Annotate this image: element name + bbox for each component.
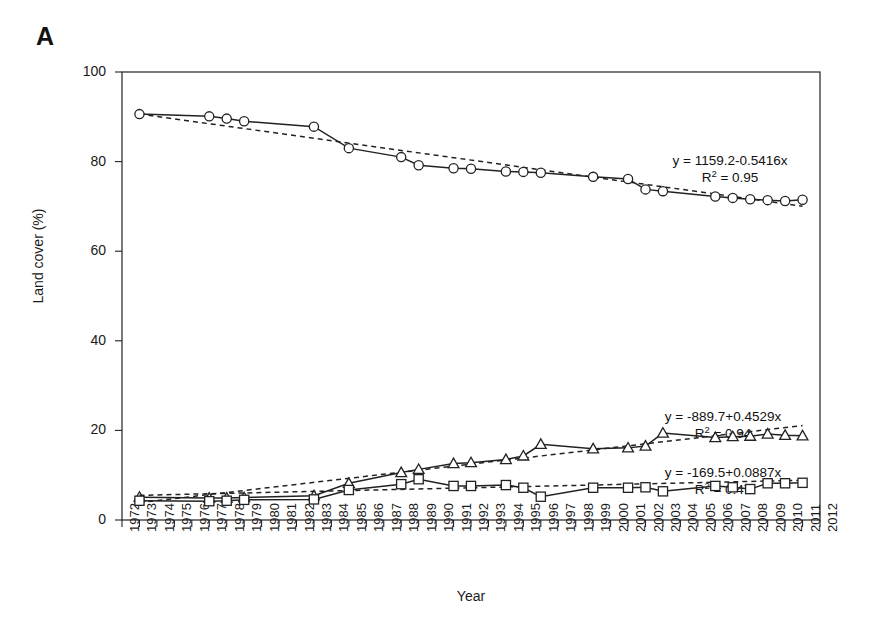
data-point-square (240, 495, 249, 504)
data-point-square (344, 485, 353, 494)
data-point-circle (798, 195, 807, 204)
data-point-triangle (762, 429, 773, 438)
data-point-square (623, 483, 632, 492)
data-point-square (711, 481, 720, 490)
data-point-square (781, 479, 790, 488)
data-point-square (222, 496, 231, 505)
data-point-circle (414, 161, 423, 170)
data-point-square (536, 492, 545, 501)
data-point-circle (589, 172, 598, 181)
data-point-circle (536, 168, 545, 177)
data-point-square (728, 483, 737, 492)
data-point-square (501, 480, 510, 489)
data-point-circle (466, 164, 475, 173)
data-point-square (466, 481, 475, 490)
data-point-circle (344, 144, 353, 153)
data-point-circle (205, 112, 214, 121)
data-point-circle (641, 185, 650, 194)
data-point-circle (519, 167, 528, 176)
data-point-square (519, 483, 528, 492)
series-circle (135, 110, 807, 207)
data-point-circle (746, 195, 755, 204)
data-point-square (589, 483, 598, 492)
data-point-square (641, 483, 650, 492)
data-point-circle (501, 167, 510, 176)
data-point-triangle (658, 428, 669, 437)
data-point-circle (222, 114, 231, 123)
data-point-circle (397, 153, 406, 162)
data-point-square (746, 484, 755, 493)
data-point-circle (711, 192, 720, 201)
data-point-circle (240, 117, 249, 126)
data-point-square (449, 481, 458, 490)
data-point-square (205, 497, 214, 506)
data-point-circle (658, 187, 667, 196)
figure-panel-a: A Land cover (%) Year 020406080100 19721… (0, 0, 869, 630)
data-point-square (763, 479, 772, 488)
data-point-circle (623, 174, 632, 183)
data-point-circle (135, 110, 144, 119)
data-point-square (135, 496, 144, 505)
data-point-circle (781, 196, 790, 205)
plot-frame (122, 72, 820, 520)
data-point-circle (728, 193, 737, 202)
data-point-circle (449, 164, 458, 173)
data-point-square (397, 480, 406, 489)
series-square (135, 475, 807, 506)
data-point-triangle (518, 451, 529, 460)
plot-area (0, 0, 869, 630)
data-point-circle (309, 122, 318, 131)
data-point-triangle (640, 441, 651, 450)
data-point-square (798, 478, 807, 487)
trend-line (139, 114, 802, 206)
data-point-triangle (535, 439, 546, 448)
data-point-square (658, 487, 667, 496)
data-point-circle (763, 196, 772, 205)
data-point-square (309, 495, 318, 504)
data-point-square (414, 475, 423, 484)
